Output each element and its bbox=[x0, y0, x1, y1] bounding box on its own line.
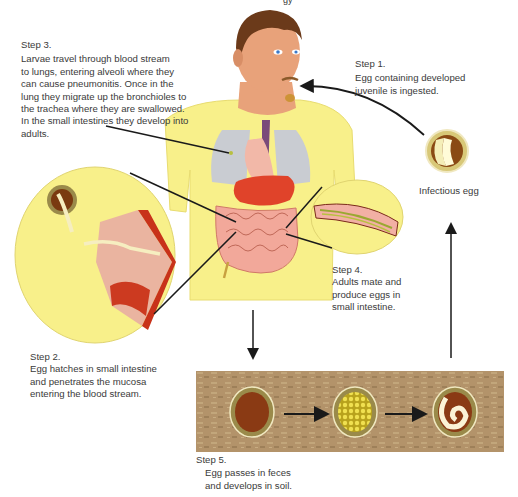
step5-line: and develops in soil. bbox=[196, 480, 346, 492]
step2-line: and penetrates the mucosa bbox=[30, 376, 200, 388]
step2-text: Step 2. Egg hatches in small intestine a… bbox=[30, 351, 200, 401]
step5-text: Step 5. Egg passes in feces and develops… bbox=[196, 454, 346, 492]
step4-text: Step 4. Adults mate and produce eggs in … bbox=[332, 264, 442, 314]
soil-development-strip bbox=[196, 371, 504, 452]
step1-text: Step 1. Egg containing developed juvenil… bbox=[355, 58, 505, 97]
step5-heading: Step 5. bbox=[196, 454, 346, 466]
step3-line: Larvae travel through blood stream bbox=[21, 53, 241, 65]
step2-line: entering the blood stream. bbox=[30, 388, 200, 400]
step4-line: small intestine. bbox=[332, 301, 442, 313]
step3-line: can cause pneumonitis. Once in the bbox=[21, 78, 241, 90]
infectious-egg-label: Infectious egg bbox=[419, 185, 479, 196]
step3-line: In the small intestines they develop int… bbox=[21, 115, 241, 127]
step2-magnified-view bbox=[15, 167, 176, 343]
step3-line: lung they migrate up the bronchioles to bbox=[21, 91, 241, 103]
step4-magnified-view bbox=[311, 180, 403, 254]
step2-heading: Step 2. bbox=[30, 351, 200, 363]
clipped-title: gy bbox=[283, 0, 293, 5]
step4-line: Adults mate and bbox=[332, 276, 442, 288]
step3-line: the trachea where they are swallowed. bbox=[21, 103, 241, 115]
infectious-egg-illustration bbox=[426, 130, 468, 172]
step1-line: Egg containing developed bbox=[355, 72, 505, 84]
step3-heading: Step 3. bbox=[21, 39, 241, 51]
step4-heading: Step 4. bbox=[332, 264, 442, 276]
step3-line: to lungs, entering alveoli where they bbox=[21, 66, 241, 78]
step4-line: produce eggs in bbox=[332, 289, 442, 301]
step3-text: Step 3. Larvae travel through blood stre… bbox=[21, 39, 241, 140]
step5-line: Egg passes in feces bbox=[196, 467, 346, 479]
step1-line: juvenile is ingested. bbox=[355, 85, 505, 97]
step1-heading: Step 1. bbox=[355, 58, 505, 70]
step2-line: Egg hatches in small intestine bbox=[30, 363, 200, 375]
step3-line: adults. bbox=[21, 128, 241, 140]
